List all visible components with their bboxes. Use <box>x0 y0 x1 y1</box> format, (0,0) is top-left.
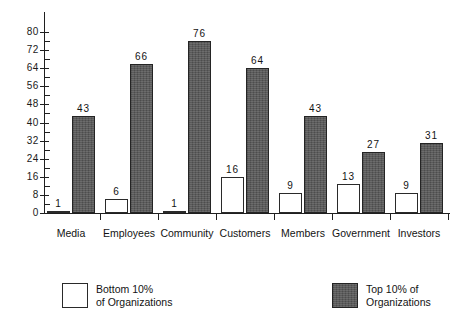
bar-value-label: 27 <box>367 140 380 150</box>
y-axis-label-32: 32 <box>27 136 39 146</box>
bar-value-label: 31 <box>425 131 438 141</box>
y-axis-label-8: 8 <box>33 190 39 200</box>
x-group-tick <box>390 213 391 220</box>
y-axis-label-48: 48 <box>27 99 39 109</box>
y-minor-tick <box>45 41 50 42</box>
bar-investors-bottom10: 9 <box>395 193 418 213</box>
bar-members-bottom10: 9 <box>279 193 302 213</box>
x-group-tick <box>448 213 449 220</box>
bar-value-label: 13 <box>342 172 355 182</box>
bar-value-label: 43 <box>77 104 90 114</box>
bar-community-bottom10: 1 <box>163 211 186 213</box>
category-label-customers: Customers <box>220 228 271 239</box>
bar-investors-top10: 31 <box>420 143 443 213</box>
y-tick-0 <box>40 213 49 214</box>
bar-value-label: 66 <box>135 52 148 62</box>
x-group-tick <box>332 213 333 220</box>
legend-label-bottom-10-line1: Bottom 10% <box>96 283 172 296</box>
bar-value-label: 16 <box>226 165 239 175</box>
bar-customers-top10: 64 <box>246 68 269 213</box>
y-minor-tick <box>45 113 50 114</box>
y-tick-72 <box>40 50 49 51</box>
y-minor-tick <box>45 59 50 60</box>
filled-square-swatch <box>332 283 358 308</box>
legend-label-bottom-10-line2: of Organizations <box>96 296 172 309</box>
x-group-tick <box>158 213 159 220</box>
bar-employees-bottom10: 6 <box>105 199 128 213</box>
x-group-tick <box>216 213 217 220</box>
legend-label-top-10-line1: Top 10% of <box>366 283 431 296</box>
y-axis-label-56: 56 <box>27 81 39 91</box>
bar-chart: 08162432404856647280 1436661761664943132… <box>0 0 461 325</box>
category-label-government: Government <box>332 228 390 239</box>
legend-label-top-10-line2: Organizations <box>366 296 431 309</box>
y-axis-label-40: 40 <box>27 118 39 128</box>
y-tick-40 <box>40 123 49 124</box>
category-label-community: Community <box>160 228 213 239</box>
y-axis-label-0: 0 <box>33 208 39 218</box>
y-minor-tick <box>45 204 50 205</box>
category-label-employees: Employees <box>103 228 155 239</box>
bar-customers-bottom10: 16 <box>221 177 244 213</box>
y-minor-tick <box>45 77 50 78</box>
bar-government-bottom10: 13 <box>337 184 360 213</box>
y-minor-tick <box>45 186 50 187</box>
y-tick-64 <box>40 68 49 69</box>
category-label-media: Media <box>57 228 86 239</box>
y-minor-tick <box>45 150 50 151</box>
bar-value-label: 1 <box>55 199 61 209</box>
category-label-investors: Investors <box>398 228 441 239</box>
bar-value-label: 43 <box>309 104 322 114</box>
bar-value-label: 64 <box>251 56 264 66</box>
x-group-tick <box>100 213 101 220</box>
y-minor-tick <box>45 132 50 133</box>
y-minor-tick <box>45 95 50 96</box>
legend-label-top-10: Top 10% of Organizations <box>366 283 431 308</box>
y-tick-56 <box>40 86 49 87</box>
y-axis-label-72: 72 <box>27 45 39 55</box>
y-minor-tick <box>45 168 50 169</box>
x-group-tick <box>274 213 275 220</box>
bar-value-label: 1 <box>171 199 177 209</box>
y-axis-label-24: 24 <box>27 154 39 164</box>
y-tick-24 <box>40 159 49 160</box>
plot-area: 08162432404856647280 1436661761664943132… <box>44 12 450 214</box>
category-label-members: Members <box>281 228 325 239</box>
y-axis-label-80: 80 <box>27 27 39 37</box>
bar-value-label: 6 <box>113 187 119 197</box>
y-axis-label-16: 16 <box>27 172 39 182</box>
bar-value-label: 9 <box>287 181 293 191</box>
bar-government-top10: 27 <box>362 152 385 213</box>
y-tick-32 <box>40 141 49 142</box>
hollow-square-swatch <box>62 283 88 308</box>
y-axis-label-64: 64 <box>27 63 39 73</box>
y-tick-16 <box>40 177 49 178</box>
legend-label-bottom-10: Bottom 10% of Organizations <box>96 283 172 308</box>
y-tick-8 <box>40 195 49 196</box>
bar-value-label: 76 <box>193 29 206 39</box>
legend-item-bottom-10: Bottom 10% of Organizations <box>62 283 172 308</box>
bar-media-bottom10: 1 <box>47 211 70 213</box>
bar-value-label: 9 <box>403 181 409 191</box>
bar-media-top10: 43 <box>72 116 95 213</box>
legend-item-top-10: Top 10% of Organizations <box>332 283 431 308</box>
y-tick-48 <box>40 104 49 105</box>
bar-employees-top10: 66 <box>130 64 153 213</box>
bar-community-top10: 76 <box>188 41 211 213</box>
bar-members-top10: 43 <box>304 116 327 213</box>
y-tick-80 <box>40 32 49 33</box>
